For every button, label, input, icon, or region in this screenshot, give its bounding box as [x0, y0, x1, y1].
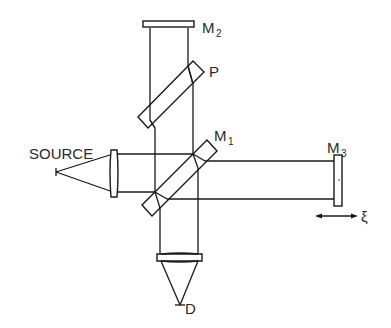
arm-beam-m2	[150, 28, 193, 192]
detector-cone	[161, 261, 198, 305]
label-xi: ξ	[361, 208, 368, 225]
label-d: D	[185, 300, 196, 317]
detector-lens	[157, 254, 202, 261]
label-p: P	[209, 63, 219, 80]
label-m3-sub: 3	[341, 148, 347, 159]
compensator-plate-p	[138, 61, 204, 128]
output-beam	[155, 154, 198, 254]
interferometer-diagram: SOURCE M 2 P M 1 M 3 ξ D	[0, 0, 391, 328]
label-m1-sub: 1	[228, 136, 234, 147]
label-m1: M	[214, 127, 227, 144]
mirror-m3	[334, 155, 342, 206]
label-m3: M	[327, 139, 340, 156]
beam-splitter-m1	[142, 140, 217, 216]
label-m2-sub: 2	[216, 28, 222, 39]
translation-arrow	[315, 214, 358, 219]
label-m2: M	[202, 19, 215, 36]
label-source: SOURCE	[29, 145, 93, 162]
arm-beam-m3	[167, 161, 334, 199]
mirror-m2	[143, 21, 194, 27]
source-lens	[110, 150, 118, 197]
